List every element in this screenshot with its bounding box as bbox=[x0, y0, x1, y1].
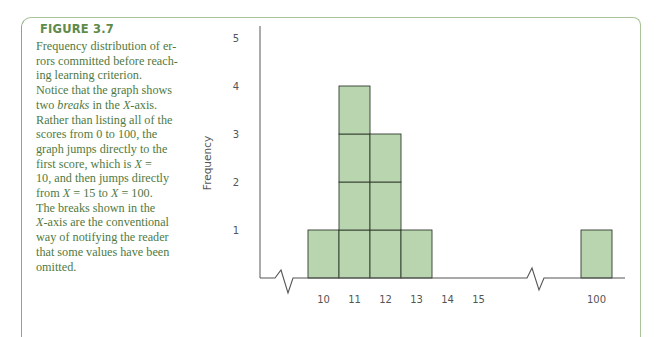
x-tick-label: 100 bbox=[587, 294, 606, 305]
histogram-bar-block bbox=[339, 230, 370, 278]
x-tick-label: 10 bbox=[317, 294, 330, 305]
x-tick-label: 13 bbox=[410, 294, 423, 305]
histogram-bar-block bbox=[370, 230, 401, 278]
histogram-bar-block bbox=[401, 230, 432, 278]
histogram-bar-block bbox=[308, 230, 339, 278]
histogram-bar-block bbox=[370, 134, 401, 182]
y-tick-label: 5 bbox=[233, 33, 239, 44]
histogram-bar-block bbox=[370, 182, 401, 230]
x-tick-label: 12 bbox=[379, 294, 392, 305]
y-tick-label: 3 bbox=[233, 129, 239, 140]
histogram-bar-block bbox=[339, 182, 370, 230]
x-tick-label: 15 bbox=[472, 294, 485, 305]
x-tick-label: 11 bbox=[348, 294, 361, 305]
histogram-bar-block bbox=[339, 134, 370, 182]
histogram-bar-block bbox=[581, 230, 612, 278]
y-tick-label: 4 bbox=[233, 81, 239, 92]
y-axis-label: Frequency bbox=[201, 136, 213, 190]
x-tick-label: 14 bbox=[441, 294, 454, 305]
histogram-bar-block bbox=[339, 86, 370, 134]
y-tick-label: 2 bbox=[233, 177, 239, 188]
y-tick-label: 1 bbox=[233, 225, 239, 236]
